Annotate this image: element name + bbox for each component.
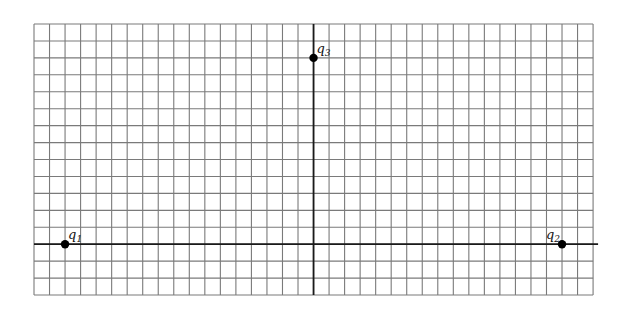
- charge-diagram: q1q2q3: [0, 0, 624, 314]
- charge-q2: q2: [546, 227, 566, 248]
- charge-q3: q3: [309, 41, 331, 62]
- charge-label: q1: [68, 227, 82, 244]
- grid-canvas: q1q2q3: [0, 0, 624, 314]
- charge-label: q2: [546, 227, 560, 244]
- charge-q1: q1: [61, 227, 82, 248]
